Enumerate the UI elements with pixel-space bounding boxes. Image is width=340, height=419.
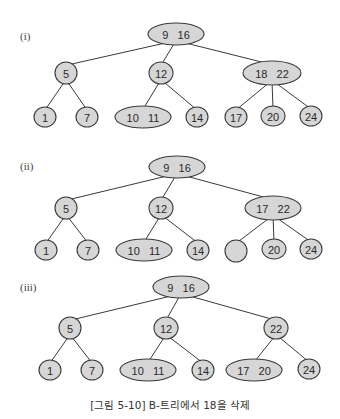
- tree-edge: [177, 174, 273, 200]
- tree-node: 7: [81, 360, 103, 380]
- tree-node: 12: [154, 317, 178, 339]
- tree-edge: [161, 80, 197, 110]
- tree-node: 10 11: [115, 106, 171, 128]
- node-keys: 12: [155, 203, 167, 215]
- node-keys: 9 16: [163, 162, 191, 174]
- tree-node: 5: [55, 62, 77, 84]
- tree-node: 5: [55, 197, 77, 219]
- node-keys: 9 16: [167, 282, 195, 294]
- tree-node: 24: [300, 239, 322, 259]
- tree-node: 14: [186, 107, 208, 127]
- node-keys: 12: [155, 68, 167, 80]
- node-keys: 14: [197, 365, 209, 377]
- node-keys: 12: [160, 323, 172, 335]
- node-keys: 10 11: [127, 112, 160, 124]
- tree-node: 17: [225, 107, 247, 127]
- tree-edge: [70, 294, 181, 321]
- node-keys: 10 11: [132, 365, 165, 377]
- node-keys: 5: [63, 68, 69, 80]
- tree-node: 1: [35, 240, 57, 260]
- node-keys: 17: [230, 112, 242, 124]
- tree-node: 12: [149, 62, 173, 84]
- tree-edge: [276, 335, 309, 362]
- tree-edge: [161, 215, 198, 243]
- tree-label: (iii): [20, 281, 37, 294]
- tree-label: (i): [20, 30, 31, 43]
- tree-node: 18 22: [243, 61, 301, 85]
- tree-node: 9 16: [153, 276, 209, 298]
- tree-node: 5: [59, 317, 81, 339]
- node-keys: 10 11: [128, 245, 161, 257]
- node-keys: 5: [67, 323, 73, 335]
- tree-node: 17 20: [226, 359, 282, 381]
- node-keys: 1: [42, 112, 48, 124]
- node-keys: 14: [191, 112, 203, 124]
- node-keys: 7: [84, 112, 90, 124]
- node-keys: 24: [305, 244, 317, 256]
- trees: (i)9 1651218 221710 1114172024(ii)9 1651…: [20, 23, 322, 381]
- tree-node: 12: [149, 197, 173, 219]
- tree-label: (ii): [20, 160, 34, 173]
- tree-node: 22: [264, 317, 288, 339]
- tree-node: 17 22: [245, 196, 301, 220]
- tree-edge: [176, 41, 272, 65]
- node-keys: 7: [85, 245, 91, 257]
- node-keys: 17 22: [256, 203, 290, 215]
- tree-node: 20: [261, 106, 285, 126]
- tree-node: 7: [77, 240, 99, 260]
- tree-node: 14: [192, 360, 214, 380]
- tree-edge: [166, 335, 203, 363]
- tree-edge: [66, 174, 177, 201]
- tree-node: 10 11: [116, 239, 172, 261]
- tree-2: (ii)9 1651217 221710 11142024: [20, 156, 322, 262]
- figure-caption: [그림 5-10] B-트리에서 18을 삭제: [90, 399, 250, 411]
- node-keys: 24: [303, 364, 315, 376]
- tree-node: 9 16: [148, 23, 204, 45]
- tree-edge: [45, 80, 66, 110]
- node-keys: 18 22: [255, 68, 289, 80]
- tree-edge: [181, 294, 276, 321]
- tree-node: 14: [187, 240, 209, 260]
- tree-edge: [66, 80, 87, 110]
- tree-node: 10 11: [120, 359, 176, 381]
- node-keys: 9 16: [162, 29, 190, 41]
- tree-node: [225, 240, 247, 262]
- tree-node: 1: [39, 360, 61, 380]
- node-keys: 22: [270, 323, 282, 335]
- tree-node: 9 16: [149, 156, 205, 178]
- tree-node: 20: [262, 239, 286, 259]
- tree-node: 24: [298, 359, 320, 379]
- tree-1: (i)9 1651218 221710 1114172024: [20, 23, 322, 128]
- b-tree-deletion-diagram: (i)9 1651218 221710 1114172024(ii)9 1651…: [0, 0, 340, 419]
- node-keys: 20: [267, 111, 279, 123]
- node-keys: 1: [43, 245, 49, 257]
- node-keys: 24: [305, 111, 317, 123]
- node-keys: 5: [63, 203, 69, 215]
- tree-node: 1: [34, 107, 56, 127]
- node-keys: 20: [268, 244, 280, 256]
- node-keys: 14: [192, 245, 204, 257]
- node-keys: 1: [47, 365, 53, 377]
- node-shape: [225, 240, 247, 262]
- tree-node: 24: [300, 106, 322, 126]
- node-keys: 17 20: [237, 365, 271, 377]
- tree-3: (iii)9 16512221710 111417 2024: [20, 276, 320, 381]
- tree-node: 7: [76, 107, 98, 127]
- node-keys: 7: [89, 365, 95, 377]
